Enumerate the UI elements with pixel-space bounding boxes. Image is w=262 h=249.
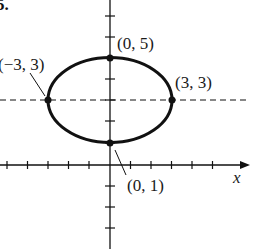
leader-line-left <box>30 73 45 96</box>
ellipse-graph: 5. x (0, 5) ( <box>0 0 262 249</box>
x-axis-label: x <box>232 168 241 187</box>
point-bottom <box>107 140 114 147</box>
label-bottom-point: (0, 1) <box>127 176 164 195</box>
leader-line-bottom <box>115 150 126 175</box>
label-left-point: (−3, 3) <box>0 55 44 74</box>
problem-number: 5. <box>0 0 9 14</box>
point-left <box>45 97 52 104</box>
x-axis-arrow-icon <box>240 161 250 169</box>
point-top <box>107 55 114 62</box>
point-right <box>169 97 176 104</box>
label-top-point: (0, 5) <box>117 34 154 53</box>
label-right-point: (3, 3) <box>175 73 212 92</box>
